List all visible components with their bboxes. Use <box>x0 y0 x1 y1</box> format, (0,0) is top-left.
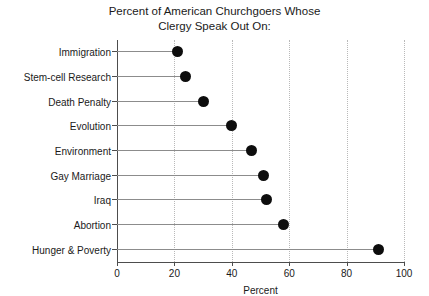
x-axis-title: Percent <box>117 285 404 296</box>
stem-line <box>117 224 283 225</box>
y-axis-label-column: ImmigrationStem-cell ResearchDeath Penal… <box>0 40 111 262</box>
y-axis-spine <box>117 40 118 262</box>
stem-line <box>117 76 186 77</box>
gridline <box>347 40 348 262</box>
gridline <box>232 40 233 262</box>
x-axis-tick-label: 0 <box>114 268 120 279</box>
x-axis-spine <box>117 262 405 263</box>
x-axis-tick-label: 80 <box>341 268 352 279</box>
y-axis-category-label: Iraq <box>94 195 111 206</box>
x-axis-tick <box>404 262 405 266</box>
data-point-marker <box>198 96 209 107</box>
data-point-marker <box>278 219 289 230</box>
data-point-marker <box>373 244 384 255</box>
stem-line <box>117 125 232 126</box>
stem-line <box>117 150 252 151</box>
x-axis-tick-label: 20 <box>169 268 180 279</box>
y-axis-category-label: Environment <box>55 146 111 157</box>
chart-title: Percent of American Churchgoers Whose Cl… <box>0 4 429 34</box>
y-axis-category-label: Evolution <box>70 121 111 132</box>
gridline <box>174 40 175 262</box>
y-axis-category-label: Immigration <box>59 47 111 58</box>
x-axis-tick-label: 60 <box>284 268 295 279</box>
y-axis-category-label: Stem-cell Research <box>24 72 111 83</box>
data-point-marker <box>180 71 191 82</box>
data-point-marker <box>226 120 237 131</box>
x-axis-tick-label: 40 <box>226 268 237 279</box>
y-axis-category-label: Abortion <box>74 220 111 231</box>
y-axis-category-label: Hunger & Poverty <box>32 244 111 255</box>
data-point-marker <box>172 46 183 57</box>
stem-line <box>117 199 266 200</box>
x-axis-tick <box>289 262 290 266</box>
gridline <box>404 40 405 262</box>
stem-line <box>117 249 378 250</box>
x-axis-tick <box>117 262 118 266</box>
x-axis-tick <box>347 262 348 266</box>
x-axis-tick-label: 100 <box>396 268 413 279</box>
data-point-marker <box>258 170 269 181</box>
plot-area: 020406080100 <box>117 40 404 262</box>
stem-line <box>117 175 263 176</box>
data-point-marker <box>246 145 257 156</box>
y-axis-category-label: Gay Marriage <box>50 170 111 181</box>
y-axis-category-label: Death Penalty <box>48 96 111 107</box>
stem-line <box>117 51 177 52</box>
x-axis-tick <box>232 262 233 266</box>
x-axis-tick <box>174 262 175 266</box>
data-point-marker <box>261 194 272 205</box>
gridline <box>289 40 290 262</box>
stem-line <box>117 101 203 102</box>
